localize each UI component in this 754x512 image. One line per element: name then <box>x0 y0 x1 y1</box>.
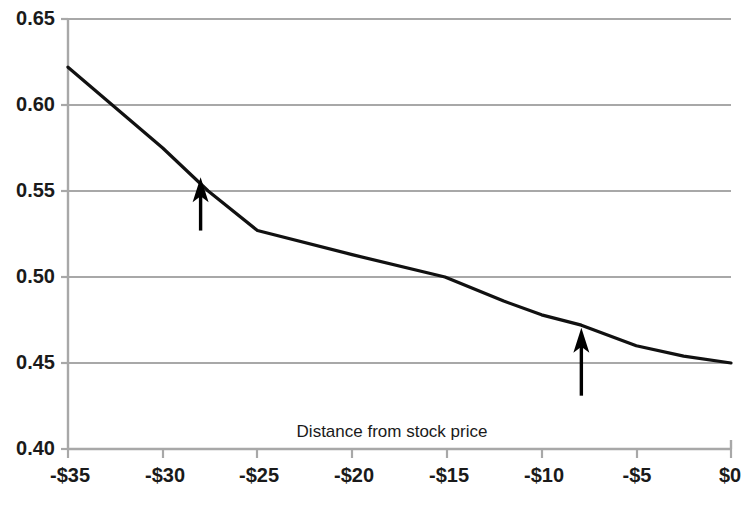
y-tick-label-0-45: 0.45 <box>16 351 55 373</box>
x-tick-label-0: $0 <box>719 464 741 486</box>
line-chart: 0.65 0.60 0.55 0.50 0.45 0.40 -$35 -$30 … <box>0 0 754 512</box>
chart-container: 0.65 0.60 0.55 0.50 0.45 0.40 -$35 -$30 … <box>0 0 754 512</box>
y-tick-label-0-40: 0.40 <box>16 437 55 459</box>
y-tick-label-0-50: 0.50 <box>16 265 55 287</box>
x-axis-title: Distance from stock price <box>297 422 488 441</box>
x-tick-label-20: -$20 <box>334 464 374 486</box>
x-tick-label-5: -$5 <box>623 464 652 486</box>
axis-spines <box>68 19 731 449</box>
y-tick-label-0-60: 0.60 <box>16 93 55 115</box>
x-tick-labels: -$35 -$30 -$25 -$20 -$15 -$10 -$5 $0 <box>50 464 741 486</box>
x-tickmarks <box>68 449 731 458</box>
annotation-arrow-left <box>193 177 209 230</box>
x-tick-label-15: -$15 <box>429 464 469 486</box>
x-tick-label-25: -$25 <box>239 464 279 486</box>
x-tick-label-30: -$30 <box>145 464 185 486</box>
y-tick-label-0-55: 0.55 <box>16 179 55 201</box>
annotation-arrow-right <box>573 328 589 396</box>
y-tick-label-0-65: 0.65 <box>16 7 55 29</box>
data-series-line <box>68 67 731 363</box>
x-tick-label-35: -$35 <box>50 464 90 486</box>
y-tick-labels: 0.65 0.60 0.55 0.50 0.45 0.40 <box>16 7 55 459</box>
x-tick-label-10: -$10 <box>524 464 564 486</box>
gridlines <box>68 19 731 449</box>
